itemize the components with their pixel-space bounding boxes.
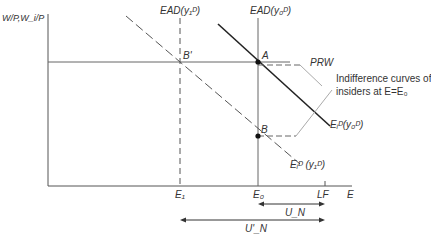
un-prime-arrowhead-left bbox=[180, 218, 186, 223]
y-axis-label: W/P,W_i/P bbox=[2, 14, 44, 23]
point-b-prime-label: B' bbox=[183, 51, 192, 61]
tick-e0-label: E₀ bbox=[253, 190, 264, 200]
x-axis-label: E bbox=[347, 190, 354, 200]
ead-y1-label: EAD(y₁ᴰ) bbox=[160, 6, 200, 16]
un-label: U_N bbox=[285, 208, 305, 218]
un-prime-label: U'_N bbox=[245, 224, 267, 234]
point-b-label: B bbox=[261, 125, 268, 135]
point-a-marker bbox=[255, 59, 260, 64]
ed-y1-label: Eᵢᴰ (y₁ᴰ) bbox=[290, 160, 325, 170]
un-prime-arrowhead-right bbox=[319, 218, 325, 223]
indifference-curve-upper bbox=[300, 65, 322, 86]
tick-e1-label: E₁ bbox=[175, 190, 185, 200]
indifference-curve-lower bbox=[296, 90, 332, 136]
prw-label: PRW bbox=[310, 58, 333, 68]
indifference-annotation: Indifference curves of insiders at E=E₀ bbox=[336, 72, 431, 98]
tick-lf-label: LF bbox=[317, 190, 329, 200]
point-b-marker bbox=[255, 133, 260, 138]
un-arrowhead-left bbox=[258, 202, 264, 207]
annotation-line-1: Indifference curves of bbox=[336, 72, 431, 85]
un-arrowhead-right bbox=[319, 202, 325, 207]
ead-y0-label: EAD(y₀ᴰ) bbox=[250, 6, 291, 16]
annotation-line-2: insiders at E=E₀ bbox=[336, 85, 431, 98]
ed-y0-label: Eᵢᴰ(y₀ᴰ) bbox=[330, 120, 363, 130]
point-a-label: A bbox=[262, 51, 269, 61]
labor-demand-y0-curve bbox=[218, 24, 330, 126]
labor-demand-y1-curve bbox=[126, 16, 300, 164]
